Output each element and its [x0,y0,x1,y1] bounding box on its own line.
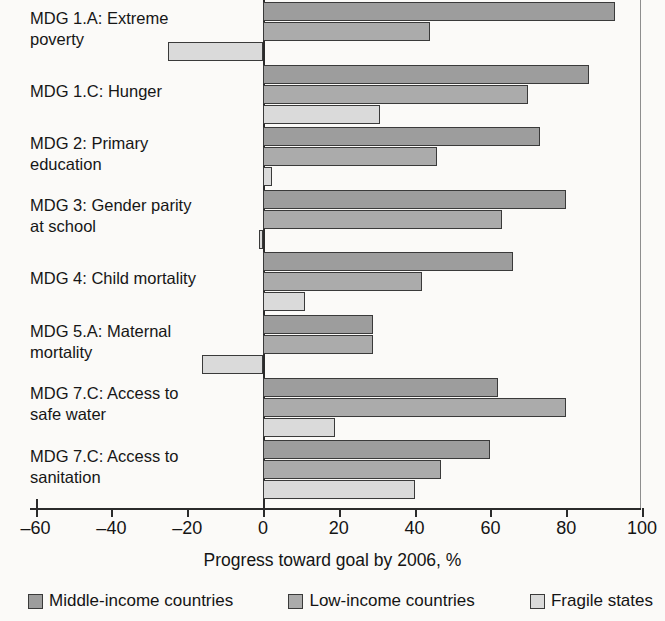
legend-swatch-icon [288,594,303,609]
bar [263,22,430,41]
x-tick [339,508,341,517]
x-tick [111,508,113,517]
legend-item[interactable]: Fragile states [530,591,653,611]
plot-right-border [640,0,641,508]
legend-item[interactable]: Middle-income countries [28,591,233,611]
category-label-line: MDG 1.C: Hunger [30,81,255,102]
bar [263,85,528,104]
x-tick-label: 80 [556,518,576,539]
category-label: MDG 4: Child mortality [30,268,255,289]
category-label-line: MDG 1.A: Extreme [30,8,255,29]
category-label-line: poverty [30,29,255,50]
category-label: MDG 1.A: Extremepoverty [30,8,255,50]
bar [263,252,513,271]
legend-item[interactable]: Low-income countries [288,591,474,611]
bar [263,335,373,354]
bar [263,480,415,499]
category-label-line: MDG 2: Primary [30,133,255,154]
x-tick-label: –20 [172,518,202,539]
bar-chart: MDG 1.A: ExtremepovertyMDG 1.C: HungerMD… [0,0,665,621]
bar [263,440,490,459]
bar [263,127,540,146]
bar [263,292,305,311]
bar [263,210,502,229]
category-label-line: safe water [30,404,255,425]
x-axis-line [30,508,641,510]
x-tick-label: –40 [96,518,126,539]
legend-swatch-icon [530,594,545,609]
bar [263,398,566,417]
x-axis-end-cap [36,499,38,509]
plot-area [30,0,640,508]
x-tick [566,508,568,517]
category-label-line: at school [30,216,255,237]
bar [263,378,498,397]
x-tick [490,508,492,517]
bar [263,167,272,186]
x-tick-label: 0 [258,518,268,539]
category-label: MDG 5.A: Maternalmortality [30,321,255,363]
category-label-line: MDG 7.C: Access to [30,383,255,404]
category-label: MDG 7.C: Access tosanitation [30,446,255,488]
category-label: MDG 7.C: Access tosafe water [30,383,255,425]
category-label: MDG 2: Primaryeducation [30,133,255,175]
x-tick [642,508,644,517]
bar [263,418,335,437]
bar [263,2,615,21]
x-axis-title: Progress toward goal by 2006, % [0,550,665,571]
x-tick-label: 60 [480,518,500,539]
category-label-line: education [30,154,255,175]
legend-swatch-icon [28,594,43,609]
bar [263,105,380,124]
category-label: MDG 3: Gender parityat school [30,195,255,237]
bar [259,230,263,249]
chart-legend: Middle-income countriesLow-income countr… [28,591,653,611]
bar [263,460,441,479]
bar [263,272,422,291]
category-label-line: MDG 4: Child mortality [30,268,255,289]
category-label-line: MDG 3: Gender parity [30,195,255,216]
legend-label: Low-income countries [309,591,474,611]
x-tick [187,508,189,517]
legend-label: Fragile states [551,591,653,611]
bar [263,190,566,209]
x-tick-label: 20 [329,518,349,539]
category-label-line: mortality [30,342,255,363]
category-label-line: MDG 5.A: Maternal [30,321,255,342]
bar [263,65,589,84]
category-label-line: MDG 7.C: Access to [30,446,255,467]
category-label: MDG 1.C: Hunger [30,81,255,102]
category-label-line: sanitation [30,467,255,488]
bar [263,147,437,166]
x-tick [415,508,417,517]
x-tick [263,508,265,517]
x-tick-label: –60 [21,518,51,539]
x-tick [36,508,38,517]
legend-label: Middle-income countries [49,591,233,611]
x-tick-label: 100 [627,518,657,539]
bar [263,315,373,334]
x-tick-label: 40 [405,518,425,539]
